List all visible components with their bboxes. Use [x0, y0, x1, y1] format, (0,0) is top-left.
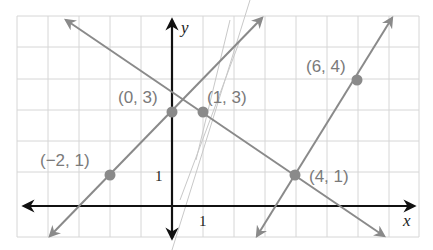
point-1-3 — [198, 107, 209, 118]
line-through-1-3-and-4-1 — [66, 20, 384, 236]
label-point-1-3: (1, 3) — [207, 88, 247, 107]
x-axis-label: x — [402, 211, 411, 230]
point-neg2-1 — [105, 170, 116, 181]
label-point-6-4: (6, 4) — [306, 57, 346, 76]
point-0-3 — [167, 107, 178, 118]
y-axis-label: y — [179, 18, 189, 37]
point-6-4 — [352, 75, 363, 86]
label-point-0-3: (0, 3) — [118, 88, 158, 107]
line-through-4-1-and-6-4 — [257, 18, 392, 236]
point-4-1 — [290, 170, 301, 181]
x-tick-label: 1 — [199, 213, 207, 229]
grid — [17, 16, 419, 237]
y-tick-label: 1 — [155, 168, 163, 184]
label-point-4-1: (4, 1) — [309, 167, 349, 186]
label-point-neg2-1: (−2, 1) — [40, 151, 90, 170]
coordinate-graph: (0, 3) (1, 3) (−2, 1) (4, 1) (6, 4) 1 1 … — [0, 0, 433, 250]
faint-lines — [172, 0, 250, 250]
line-through-neg2-1-and-0-3 — [50, 18, 262, 236]
